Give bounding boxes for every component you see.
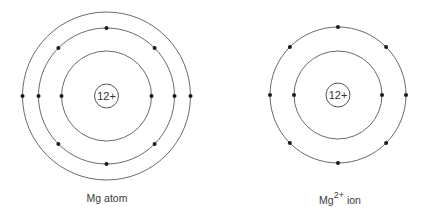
ion-caption-base: Mg xyxy=(319,194,334,206)
electron-icon xyxy=(150,94,154,98)
mg-ion-diagram: 12+ xyxy=(268,25,408,165)
mg-atom-diagram: 12+ xyxy=(21,12,193,180)
electron-icon xyxy=(21,94,25,98)
ion-caption-rest: ion xyxy=(344,194,361,206)
atom-caption-rest: atom xyxy=(101,192,127,204)
ion-nucleus-label: 12+ xyxy=(329,89,348,101)
atom-diagrams: 12+ 12+ xyxy=(0,0,429,217)
electron-icon xyxy=(105,162,109,166)
electron-icon xyxy=(404,93,408,97)
electron-icon xyxy=(336,25,340,29)
electron-icon xyxy=(60,94,64,98)
electron-icon xyxy=(189,94,193,98)
electron-icon xyxy=(380,93,384,97)
atom-caption-base: Mg xyxy=(87,192,102,204)
atom-caption: Mg atom xyxy=(87,192,128,204)
electron-icon xyxy=(384,45,388,49)
electron-icon xyxy=(292,93,296,97)
electron-icon xyxy=(105,26,109,30)
electron-icon xyxy=(288,45,292,49)
electron-icon xyxy=(384,141,388,145)
electron-icon xyxy=(56,46,60,50)
ion-caption: Mg2+ ion xyxy=(319,191,361,206)
electron-icon xyxy=(56,142,60,146)
ion-caption-charge: 2+ xyxy=(334,190,344,200)
electron-icon xyxy=(336,161,340,165)
electron-icon xyxy=(173,94,177,98)
electron-icon xyxy=(153,46,157,50)
electron-icon xyxy=(37,94,41,98)
atom-nucleus-label: 12+ xyxy=(97,90,116,102)
electron-icon xyxy=(153,142,157,146)
electron-icon xyxy=(268,93,272,97)
electron-icon xyxy=(288,141,292,145)
